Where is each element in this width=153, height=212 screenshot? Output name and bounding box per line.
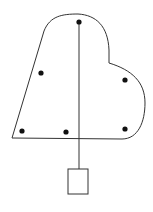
suspension-points <box>19 19 127 134</box>
suspension-point-dot <box>38 70 43 75</box>
suspension-point-dot <box>76 19 81 24</box>
suspension-point-dot <box>122 77 127 82</box>
suspension-point-dot <box>122 126 127 131</box>
plumb-weight-box <box>68 169 88 194</box>
suspension-point-dot <box>63 129 68 134</box>
plumb-line-diagram <box>0 0 153 212</box>
suspension-point-dot <box>19 128 24 133</box>
